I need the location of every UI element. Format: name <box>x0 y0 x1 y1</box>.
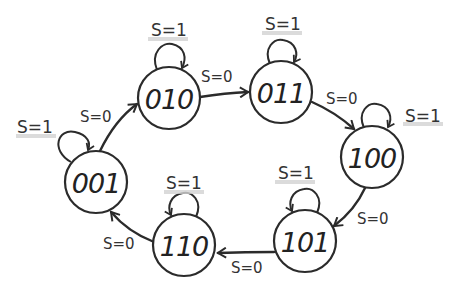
state-node-011: 011 <box>250 61 312 123</box>
transition-100-101: S=0 <box>334 188 389 228</box>
self-loop-label: S=1 <box>17 117 53 137</box>
self-loop-010: S=1 <box>148 20 188 70</box>
transition-101-110: S=0 <box>218 252 274 277</box>
self-loop-label: S=1 <box>278 163 314 183</box>
state-diagram: S=0 S=0 S=0 S=0 S=0 S=0 S=1 S=1 S=1 S=1 <box>0 0 459 300</box>
transition-arrow <box>200 92 248 97</box>
self-loop-001: S=1 <box>16 117 89 162</box>
state-node-100: 100 <box>341 126 403 188</box>
transition-011-100: S=0 <box>312 90 358 129</box>
self-loop-label: S=1 <box>166 173 202 193</box>
state-label: 001 <box>72 168 121 199</box>
transition-label: S=0 <box>326 90 358 108</box>
state-node-101: 101 <box>274 210 336 272</box>
state-node-010: 010 <box>138 67 200 129</box>
transition-label: S=0 <box>201 68 233 86</box>
transition-label: S=0 <box>80 108 112 126</box>
self-loop-label: S=1 <box>151 20 187 40</box>
state-node-110: 110 <box>153 214 215 276</box>
self-loop-011: S=1 <box>262 14 302 64</box>
state-node-001: 001 <box>65 151 127 213</box>
self-loop-100: S=1 <box>362 104 443 128</box>
state-label: 110 <box>160 231 209 262</box>
transition-label: S=0 <box>231 259 263 277</box>
state-label: 010 <box>145 84 194 115</box>
transition-010-011: S=0 <box>200 68 248 97</box>
self-loop-label: S=1 <box>405 106 441 126</box>
state-label: 101 <box>281 227 330 258</box>
transition-arrow <box>218 252 274 253</box>
transition-label: S=0 <box>357 210 389 228</box>
state-label: 011 <box>257 78 306 109</box>
self-loop-arrow <box>362 104 391 128</box>
self-loop-label: S=1 <box>265 14 301 34</box>
transition-110-001: S=0 <box>103 212 154 253</box>
self-loop-101: S=1 <box>275 163 319 213</box>
transition-label: S=0 <box>103 235 135 253</box>
self-loop-110: S=1 <box>164 173 204 217</box>
state-label: 100 <box>348 143 397 174</box>
